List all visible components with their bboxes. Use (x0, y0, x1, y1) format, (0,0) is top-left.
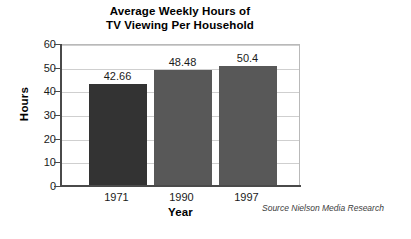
bar-value-label: 42.66 (77, 71, 159, 82)
gridline (62, 45, 299, 46)
y-tick-label: 0 (4, 181, 56, 192)
y-axis-ticks: 0102030405060 (0, 0, 56, 239)
x-tick-label: 1997 (206, 191, 288, 203)
chart-title-line-1: Average Weekly Hours of (55, 4, 305, 18)
source-note: Source Nielson Media Research (262, 203, 384, 213)
y-tick-label: 10 (4, 157, 56, 168)
y-axis-line (60, 44, 62, 187)
bar (154, 70, 212, 185)
bar (219, 66, 277, 185)
y-tick-label: 20 (4, 134, 56, 145)
y-tick-label: 30 (4, 110, 56, 121)
y-tick-label: 60 (4, 39, 56, 50)
bar (89, 84, 147, 185)
y-tick-label: 40 (4, 86, 56, 97)
bar-value-label: 50.4 (207, 53, 289, 64)
chart-title-line-2: TV Viewing Per Household (55, 18, 305, 32)
plot-inner: 42.6648.4850.4 (62, 45, 299, 185)
plot-area: 42.6648.4850.4 (61, 44, 300, 186)
y-tick-label: 50 (4, 63, 56, 74)
bar-chart-figure: Average Weekly Hours of TV Viewing Per H… (0, 0, 411, 239)
chart-title: Average Weekly Hours of TV Viewing Per H… (55, 4, 305, 32)
x-axis-line (61, 185, 301, 187)
